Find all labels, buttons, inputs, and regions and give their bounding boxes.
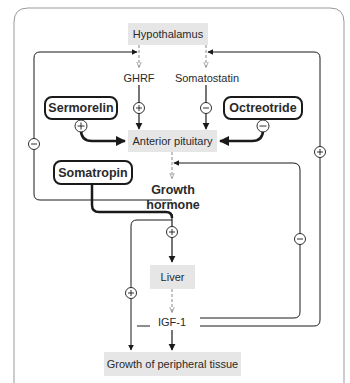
ghrf-node: GHRF [120,70,158,85]
hypothalamus-label: Hypothalamus [133,28,203,40]
growth-hormone-node: Growth hormone [142,182,204,214]
somatropin-label: Somatropin [58,166,127,180]
liver-label: Liver [161,271,185,283]
minus-sign-icon [257,120,269,132]
plus-sign-icon [126,288,137,299]
plus-sign-icon [315,147,326,158]
sermorelin-to-pituitary-arrow [81,130,125,141]
minus-sign-icon [201,103,212,114]
ghrf-label: GHRF [123,72,154,84]
anterior-pituitary-node: Anterior pituitary [128,130,217,152]
growth-hormone-label-line1: Growth [151,183,195,198]
igf1-label: IGF-1 [158,316,186,328]
octreotide-to-pituitary-arrow [220,130,263,141]
somatostatin-node: Somatostatin [174,70,240,85]
growth-hormone-label-line2: hormone [146,198,199,213]
minus-sign-icon [29,139,40,150]
anterior-pituitary-label: Anterior pituitary [132,135,212,147]
plus-sign-icon [75,120,87,132]
plus-sign-icon [167,227,178,238]
octreotide-drug-node: Octreotride [223,96,303,120]
sermorelin-drug-node: Sermorelin [44,96,118,120]
somatostatin-label: Somatostatin [175,72,239,84]
somatropin-drug-node: Somatropin [53,160,133,185]
minus-sign-icon [295,234,306,245]
sermorelin-label: Sermorelin [48,101,113,115]
liver-node: Liver [150,265,195,289]
igf1-node: IGF-1 [152,314,192,330]
plus-sign-icon [134,103,145,114]
hypothalamus-node: Hypothalamus [128,23,208,45]
peripheral-tissue-node: Growth of peripheral tissue [104,352,241,376]
octreotide-label: Octreotride [229,101,296,115]
peripheral-tissue-label: Growth of peripheral tissue [107,358,238,370]
